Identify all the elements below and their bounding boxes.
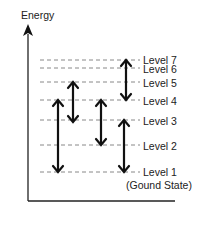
transition-arrow [68, 82, 78, 122]
transition-arrow [119, 120, 129, 172]
transition-arrow [53, 100, 63, 172]
transition-arrow [96, 100, 106, 145]
transition-arrows [53, 60, 131, 172]
level-label: Level 3 [143, 116, 177, 127]
level-label: Level 4 [143, 96, 177, 107]
level-label: Level 6 [143, 64, 177, 75]
level-label: Level 2 [143, 141, 177, 152]
level-label: Level 5 [143, 78, 177, 89]
level-label: Level 1 [143, 167, 177, 178]
transition-arrow [121, 60, 131, 100]
ground-state-note: (Gound State) [126, 180, 192, 191]
